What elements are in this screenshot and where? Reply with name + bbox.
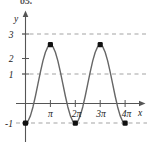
figure-container: 65. [0, 0, 149, 144]
data-point-marker [98, 42, 103, 47]
x-axis [16, 101, 146, 107]
y-tick-label-1: 1 [9, 70, 14, 80]
data-point-marker [73, 121, 78, 126]
x-tick-label-pi: π [48, 109, 53, 119]
data-point-marker [48, 42, 53, 47]
x-tick-label-2pi: 2π [72, 109, 82, 119]
data-point-marker [123, 121, 128, 126]
plot-canvas: y x 3 2 1 -1 π 2π 3π 4π [0, 0, 149, 144]
y-tick-label-neg1: -1 [5, 119, 13, 129]
x-tick-label-3pi: 3π [95, 109, 106, 119]
data-point-marker [23, 121, 28, 126]
y-axis-label: y [13, 14, 19, 24]
x-axis-label: x [137, 108, 143, 118]
y-tick-label-3: 3 [8, 30, 14, 40]
y-tick-label-2: 2 [9, 54, 14, 64]
x-tick-label-4pi: 4π [122, 109, 132, 119]
